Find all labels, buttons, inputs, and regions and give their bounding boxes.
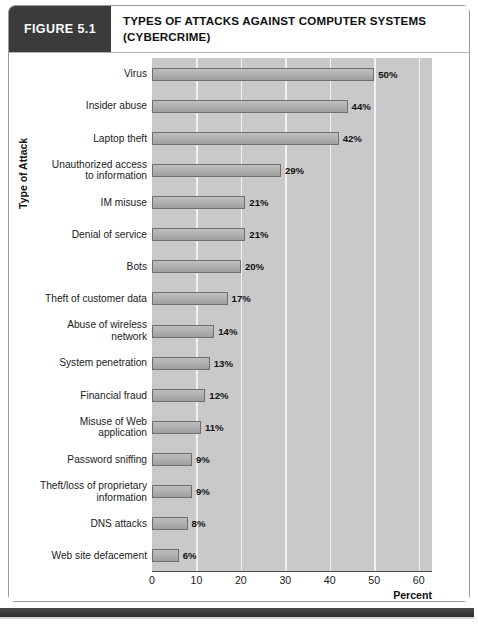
figure-title-line-1: TYPES OF ATTACKS AGAINST COMPUTER SYSTEM… [123, 14, 426, 27]
bar-value-label: 14% [218, 325, 237, 338]
x-axis-tick-label: 20 [235, 574, 247, 586]
figure-number-tag: FIGURE 5.1 [9, 6, 111, 52]
x-axis-tick-label: 40 [324, 574, 336, 586]
bar-value-label: 12% [209, 389, 228, 402]
bottom-accent-shadow [0, 617, 474, 619]
bar [152, 68, 374, 81]
bar-value-label: 6% [183, 549, 197, 562]
bar-rows-group: Virus50%Insider abuse44%Laptop theft42%U… [9, 58, 469, 572]
category-label: Misuse of Web application [0, 414, 147, 440]
bar-row: Abuse of wireless network14% [9, 318, 469, 344]
category-label: Virus [0, 61, 147, 87]
bar-row: Password sniffing9% [9, 447, 469, 473]
category-label: Financial fraud [0, 382, 147, 408]
bar [152, 421, 201, 434]
x-axis-tick-label: 30 [279, 574, 291, 586]
bar-row: Laptop theft42% [9, 125, 469, 151]
bar [152, 453, 192, 466]
category-label: Insider abuse [0, 93, 147, 119]
figure-title-line-2: (CYBERCRIME) [123, 30, 210, 43]
bar-row: Denial of service21% [9, 222, 469, 248]
bar-row: Misuse of Web application11% [9, 414, 469, 440]
bar-row: Virus50% [9, 61, 469, 87]
category-label: Theft/loss of proprietary information [0, 479, 147, 505]
bar [152, 357, 210, 370]
bar-row: Web site defacement6% [9, 543, 469, 569]
bar-row: IM misuse21% [9, 190, 469, 216]
bar-value-label: 13% [214, 357, 233, 370]
bar [152, 100, 348, 113]
bottom-accent-bar [0, 608, 474, 617]
bar-value-label: 42% [343, 132, 362, 145]
bar [152, 389, 205, 402]
bar-value-label: 21% [249, 228, 268, 241]
x-axis-title: Percent [393, 589, 432, 601]
x-axis-tick-label: 10 [191, 574, 203, 586]
bar [152, 196, 245, 209]
bar-value-label: 9% [196, 485, 210, 498]
bar-value-label: 17% [232, 292, 251, 305]
bar [152, 164, 281, 177]
bar-value-label: 50% [378, 68, 397, 81]
bar-value-label: 11% [205, 421, 224, 434]
category-label: System penetration [0, 350, 147, 376]
bar-value-label: 44% [352, 100, 371, 113]
bar [152, 485, 192, 498]
category-label: Bots [0, 254, 147, 280]
x-axis-tick-label: 50 [368, 574, 380, 586]
category-label: Password sniffing [0, 447, 147, 473]
x-axis-tick-label: 60 [413, 574, 425, 586]
figure-title: TYPES OF ATTACKS AGAINST COMPUTER SYSTEM… [123, 13, 426, 45]
category-label: Denial of service [0, 222, 147, 248]
category-label: DNS attacks [0, 511, 147, 537]
bar-value-label: 29% [285, 164, 304, 177]
chart-area: Type of Attack Virus50%Insider abuse44%L… [9, 53, 469, 601]
bar [152, 549, 179, 562]
bar [152, 260, 241, 273]
bar-row: Insider abuse44% [9, 93, 469, 119]
bar-value-label: 9% [196, 453, 210, 466]
category-label: Theft of customer data [0, 286, 147, 312]
bar-value-label: 20% [245, 260, 264, 273]
bar-row: DNS attacks8% [9, 511, 469, 537]
category-label: Web site defacement [0, 543, 147, 569]
category-label: IM misuse [0, 190, 147, 216]
category-label: Unauthorized access to information [0, 157, 147, 183]
x-axis-tick-label: 0 [149, 574, 155, 586]
bar [152, 517, 188, 530]
bar [152, 132, 339, 145]
bar-row: Financial fraud12% [9, 382, 469, 408]
bar-row: System penetration13% [9, 350, 469, 376]
figure-container: FIGURE 5.1 TYPES OF ATTACKS AGAINST COMP… [0, 0, 478, 637]
category-label: Abuse of wireless network [0, 318, 147, 344]
bar-row: Unauthorized access to information29% [9, 157, 469, 183]
bar-row: Theft of customer data17% [9, 286, 469, 312]
category-label: Laptop theft [0, 125, 147, 151]
bar-row: Bots20% [9, 254, 469, 280]
figure-title-container: TYPES OF ATTACKS AGAINST COMPUTER SYSTEM… [111, 6, 469, 52]
bar-value-label: 8% [192, 517, 206, 530]
figure-header: FIGURE 5.1 TYPES OF ATTACKS AGAINST COMP… [9, 6, 469, 52]
bar [152, 325, 214, 338]
bar-value-label: 21% [249, 196, 268, 209]
bar [152, 228, 245, 241]
bar [152, 292, 228, 305]
bar-row: Theft/loss of proprietary information9% [9, 479, 469, 505]
